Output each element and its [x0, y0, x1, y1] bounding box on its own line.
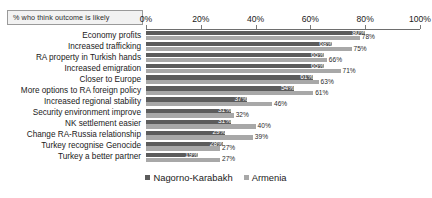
legend-label: Armenia — [252, 172, 287, 183]
legend-item[interactable]: Armenia — [244, 172, 287, 183]
bar-armenia — [146, 91, 313, 95]
x-tickmark-100 — [420, 25, 421, 29]
bar-value-label: 27% — [222, 145, 235, 152]
category-label: NK settlement easier — [65, 119, 141, 129]
bar-nagorno-karabakh — [146, 31, 365, 35]
bar-value-label: 75% — [354, 46, 367, 53]
chart-title-badge: % who think outcome is likely — [7, 10, 143, 25]
x-tick-label-20: 20% — [192, 14, 209, 24]
bar-nagorno-karabakh — [146, 64, 324, 68]
bar-armenia — [146, 124, 256, 128]
bar-value-label: 63% — [321, 79, 334, 86]
chart-title: % who think outcome is likely — [13, 13, 109, 22]
bar-armenia — [146, 146, 220, 150]
legend-swatch-icon — [244, 175, 249, 180]
category-label: Increased regional stability — [44, 97, 141, 107]
bar-value-label: 46% — [274, 101, 287, 108]
bar-value-label: 39% — [255, 134, 268, 141]
category-label: Economy profits — [82, 31, 141, 41]
bar-nagorno-karabakh — [146, 97, 247, 101]
category-label: Change RA-Russia relationship — [27, 130, 141, 140]
y-axis-category-labels: Economy profitsIncreased traffickingRA p… — [0, 30, 144, 163]
x-tick-label-100: 100% — [409, 14, 431, 24]
category-label: RA property in Turkish hands — [36, 53, 141, 63]
category-label: Closer to Europe — [80, 75, 141, 85]
bar-value-label: 27% — [222, 156, 235, 163]
bar-value-label: 32% — [236, 112, 249, 119]
legend-label: Nagorno-Karabakh — [153, 172, 232, 183]
bar-nagorno-karabakh — [146, 53, 324, 57]
legend-item[interactable]: Nagorno-Karabakh — [145, 172, 232, 183]
bar-nagorno-karabakh — [146, 75, 313, 79]
plot-area: 80%78%68%75%65%66%65%71%61%63%54%61%37%4… — [146, 30, 420, 163]
x-tick-label-0: 0% — [140, 14, 152, 24]
bar-value-label: 66% — [329, 57, 342, 64]
bar-value-label: 71% — [343, 68, 356, 75]
bar-value-label: 61% — [315, 90, 328, 97]
bar-armenia — [146, 158, 220, 162]
bar-chart: % who think outcome is likely 0%20%40%60… — [0, 0, 432, 198]
category-label: Increased trafficking — [68, 42, 141, 52]
bar-nagorno-karabakh — [146, 86, 294, 90]
category-label: Turkey recognise Genocide — [41, 141, 141, 151]
bar-armenia — [146, 58, 327, 62]
bar-armenia — [146, 135, 253, 139]
category-label: Increased emigration — [65, 64, 141, 74]
legend-swatch-icon — [145, 175, 150, 180]
chart-legend: Nagorno-KarabakhArmenia — [0, 172, 432, 183]
category-label: More options to RA foreign policy — [21, 86, 141, 96]
bar-armenia — [146, 102, 272, 106]
bar-value-label: 78% — [362, 34, 375, 41]
bar-nagorno-karabakh — [146, 42, 332, 46]
x-tick-label-40: 40% — [247, 14, 264, 24]
x-tick-label-60: 60% — [302, 14, 319, 24]
bar-value-label: 40% — [258, 123, 271, 130]
x-tick-label-80: 80% — [357, 14, 374, 24]
category-label: Security environment improve — [33, 108, 141, 118]
category-label: Turkey a better partner — [58, 152, 141, 162]
